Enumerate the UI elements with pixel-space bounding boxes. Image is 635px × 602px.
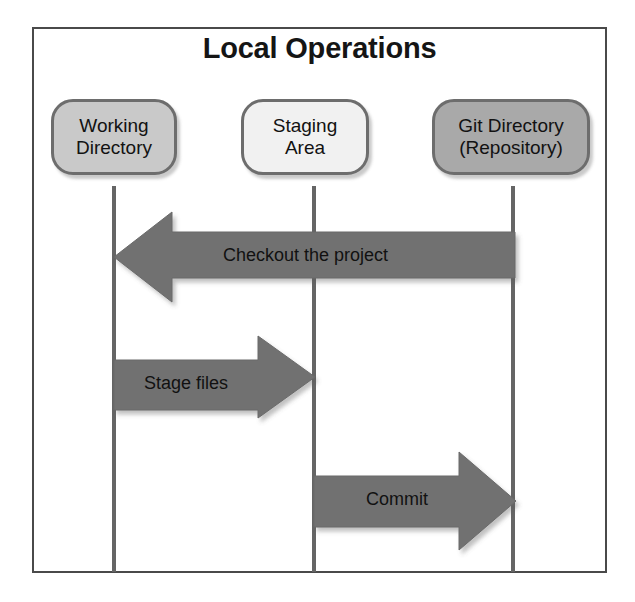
node-staging-area-line2: Area (285, 137, 325, 159)
arrow-label-checkout: Checkout the project (223, 245, 388, 266)
arrow-label-stage-files: Stage files (144, 373, 228, 394)
figure-title: Local Operations (32, 32, 607, 65)
lifeline-working-directory (112, 186, 116, 572)
node-working-directory: Working Directory (51, 99, 177, 175)
node-git-directory: Git Directory (Repository) (432, 99, 590, 175)
lifeline-git-directory (511, 186, 515, 572)
node-staging-area-line1: Staging (273, 115, 337, 137)
node-working-directory-line2: Directory (76, 137, 152, 159)
node-working-directory-line1: Working (79, 115, 148, 137)
git-local-operations-diagram: Local Operations Checkout the project St… (0, 0, 635, 602)
node-staging-area: Staging Area (241, 99, 369, 175)
lifeline-staging-area (312, 186, 316, 572)
node-git-directory-line2: (Repository) (459, 137, 562, 159)
arrow-label-commit: Commit (366, 489, 428, 510)
node-git-directory-line1: Git Directory (458, 115, 564, 137)
